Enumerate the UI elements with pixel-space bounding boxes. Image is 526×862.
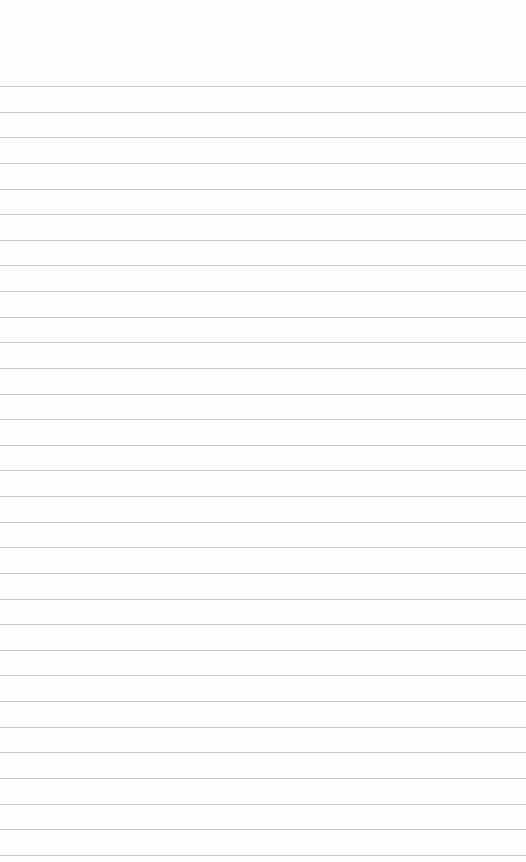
ruled-line <box>0 624 526 625</box>
ruled-line <box>0 291 526 292</box>
ruled-line <box>0 752 526 753</box>
ruled-line <box>0 445 526 446</box>
ruled-line <box>0 547 526 548</box>
ruled-line <box>0 855 526 856</box>
ruled-line <box>0 419 526 420</box>
ruled-line <box>0 778 526 779</box>
ruled-line <box>0 189 526 190</box>
ruled-line <box>0 317 526 318</box>
ruled-line <box>0 829 526 830</box>
ruled-line <box>0 470 526 471</box>
ruled-line <box>0 573 526 574</box>
ruled-line <box>0 496 526 497</box>
ruled-line <box>0 804 526 805</box>
ruled-line <box>0 342 526 343</box>
ruled-line <box>0 522 526 523</box>
ruled-line <box>0 650 526 651</box>
lined-paper <box>0 0 526 862</box>
ruled-line <box>0 368 526 369</box>
ruled-line <box>0 137 526 138</box>
ruled-line <box>0 240 526 241</box>
ruled-line <box>0 112 526 113</box>
ruled-line <box>0 394 526 395</box>
ruled-line <box>0 214 526 215</box>
ruled-line <box>0 163 526 164</box>
ruled-line <box>0 675 526 676</box>
ruled-line <box>0 265 526 266</box>
ruled-line <box>0 701 526 702</box>
ruled-line <box>0 727 526 728</box>
ruled-line <box>0 86 526 87</box>
ruled-line <box>0 599 526 600</box>
